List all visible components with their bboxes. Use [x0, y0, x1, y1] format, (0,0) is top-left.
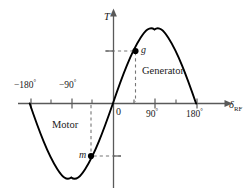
x-tick-label-90: 90°	[146, 110, 158, 120]
figure-canvas	[0, 0, 252, 195]
y-axis-label: T	[104, 12, 110, 23]
torque-load-angle-figure: T δRF 0 −180° −90° 90° 180° Motor Genera…	[0, 0, 252, 195]
operating-point-g-label: g	[141, 45, 146, 55]
origin-label: 0	[116, 107, 121, 117]
degree-sign: °	[200, 107, 203, 114]
x-axis-label-subscript: RF	[234, 105, 242, 112]
motor-region-label: Motor	[52, 120, 78, 131]
operating-point-g-marker	[132, 48, 138, 54]
generator-region-label: Generator	[142, 66, 184, 77]
x-tick-label-180: 180°	[186, 110, 203, 120]
x-tick-label-minus180: −180°	[14, 81, 36, 91]
x-axis-label: δRF	[229, 100, 242, 113]
x-tick-label-minus90: −90°	[59, 81, 76, 91]
operating-point-m-label: m	[79, 150, 86, 160]
degree-sign: °	[34, 78, 37, 85]
degree-sign: °	[74, 78, 77, 85]
operating-point-m-marker	[88, 153, 94, 159]
degree-sign: °	[156, 107, 159, 114]
